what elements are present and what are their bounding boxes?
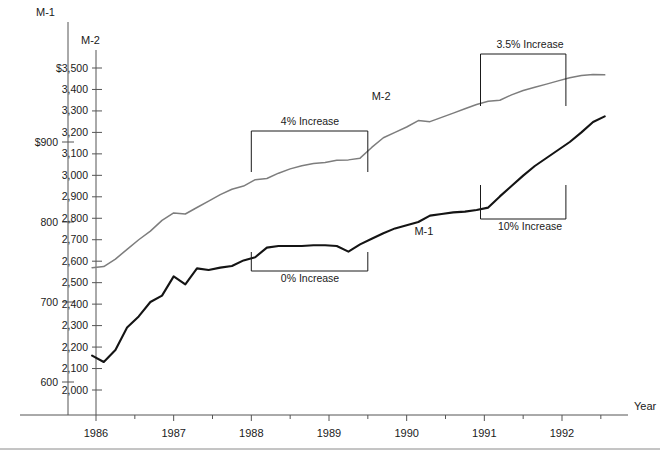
annotation-label: 4% Increase <box>281 115 340 127</box>
m2-tick-label: 2,600 <box>62 255 88 267</box>
money-supply-line-chart: M-1 M-2 $900800700600 $3,5003,4003,3003,… <box>0 0 660 454</box>
m2-tick-label: 2,700 <box>62 233 88 245</box>
chart-container: M-1 M-2 $900800700600 $3,5003,4003,3003,… <box>0 0 660 454</box>
m1-tick-label: 800 <box>40 216 58 228</box>
x-tick-label: 1991 <box>472 427 496 439</box>
annotation-label: 3.5% Increase <box>496 38 563 50</box>
series-inline-label-m-2: M-2 <box>372 90 391 102</box>
annotation-bracket <box>251 252 367 271</box>
m2-tick-label: 3,300 <box>62 104 88 116</box>
m1-tick-label: 700 <box>40 296 58 308</box>
m1-series-line <box>92 116 605 362</box>
m2-tick-label: 2,300 <box>62 319 88 331</box>
annotation-bracket <box>251 131 367 172</box>
m2-tick-label: 3,100 <box>62 147 88 159</box>
annotation-bracket <box>481 54 566 106</box>
x-tick-label: 1986 <box>84 427 108 439</box>
x-tick-label: 1989 <box>317 427 341 439</box>
m1-tick-label: $900 <box>35 136 59 148</box>
annotation-group: 4% Increase0% Increase3.5% Increase10% I… <box>251 38 566 284</box>
m2-tick-label: 3,200 <box>62 126 88 138</box>
series-label-group: M-2M-1 <box>372 90 434 237</box>
m2-tick-label: 2,100 <box>62 362 88 374</box>
m1-tick-label: 600 <box>40 376 58 388</box>
m2-tick-label: $3,500 <box>56 62 88 74</box>
annotation-label: 10% Increase <box>498 220 562 232</box>
x-tick-label: 1988 <box>239 427 263 439</box>
x-tick-label: 1992 <box>550 427 574 439</box>
m2-tick-label: 2,200 <box>62 341 88 353</box>
m2-tick-label: 2,900 <box>62 190 88 202</box>
series-inline-label-m-1: M-1 <box>414 225 433 237</box>
m2-tick-label: 3,000 <box>62 169 88 181</box>
x-axis-label: Year <box>634 400 657 412</box>
m2-tick-label: 3,400 <box>62 83 88 95</box>
annotation-label: 0% Increase <box>281 272 340 284</box>
m2-axis-title: M-2 <box>81 34 100 46</box>
m2-tick-label: 2,800 <box>62 212 88 224</box>
m1-axis-title: M-1 <box>36 6 55 18</box>
m2-tick-label: 2,500 <box>62 276 88 288</box>
x-tick-label: 1987 <box>161 427 185 439</box>
x-tick-group: 1986198719881989199019911992 <box>84 415 601 439</box>
m2-tick-label: 2,400 <box>62 298 88 310</box>
m2-tick-label: 2,000 <box>62 384 88 396</box>
x-tick-label: 1990 <box>394 427 418 439</box>
m2-tick-group: $3,5003,4003,3003,2003,1003,0002,9002,80… <box>56 62 102 396</box>
